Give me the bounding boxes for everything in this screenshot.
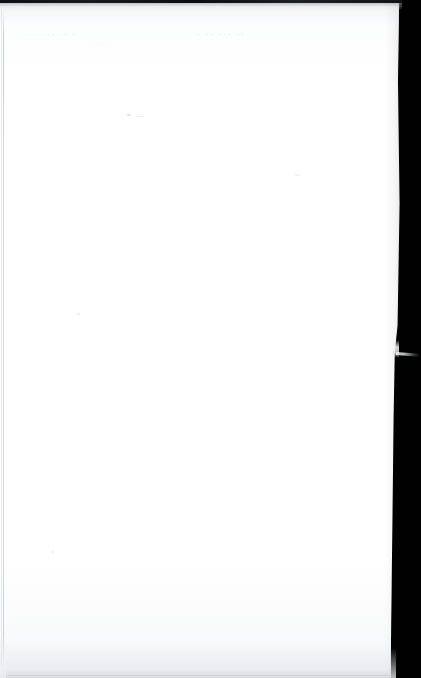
bottom-hairline <box>8 675 390 676</box>
dust-speck-icon <box>127 114 131 116</box>
ghost-text-line-3: · ·· · <box>88 38 109 48</box>
top-strip-fade <box>0 3 402 10</box>
paper-sheet <box>0 0 402 678</box>
torn-edge-nub <box>392 340 399 358</box>
dust-speck-icon <box>51 551 55 553</box>
scanned-page: · ·· ··· · · ·· ··· ·· · · ·· · <box>0 0 421 678</box>
dust-speck-icon <box>295 174 300 176</box>
dust-speck-icon <box>136 116 143 117</box>
dust-speck-icon <box>77 313 80 315</box>
ghost-text-line-2: ·· ··· ·· · <box>196 27 245 41</box>
ghost-text-line-1: · ·· ··· · · <box>26 28 75 40</box>
left-margin-rule-outer <box>1 10 2 665</box>
left-margin-rule <box>3 8 4 668</box>
